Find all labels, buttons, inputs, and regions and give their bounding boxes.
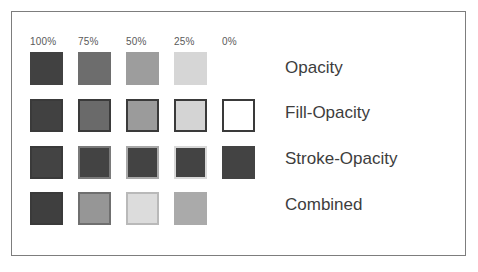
swatch-row-0-col-75 — [78, 52, 111, 85]
opacity-demo-figure: 100%75%50%25%0% OpacityFill-OpacityStrok… — [0, 0, 478, 272]
swatch-row-1-col-0 — [222, 99, 255, 132]
row-label-0: Opacity — [285, 58, 343, 78]
swatch-row-3-col-50 — [126, 192, 159, 225]
column-header-25: 25% — [174, 36, 195, 48]
swatch-row-2-col-0 — [222, 146, 255, 179]
swatch-row-1-col-100 — [30, 99, 63, 132]
row-label-2: Stroke-Opacity — [285, 149, 397, 169]
swatch-row-2-col-75 — [78, 146, 111, 179]
swatch-row-1-col-25 — [174, 99, 207, 132]
row-label-3: Combined — [285, 195, 363, 215]
swatch-row-3-col-25 — [174, 192, 207, 225]
row-label-1: Fill-Opacity — [285, 103, 370, 123]
column-header-75: 75% — [78, 36, 99, 48]
swatch-row-0-col-100 — [30, 52, 63, 85]
swatch-row-1-col-75 — [78, 99, 111, 132]
swatch-row-2-col-25 — [174, 146, 207, 179]
swatch-row-3-col-75 — [78, 192, 111, 225]
swatch-row-3-col-100 — [30, 192, 63, 225]
column-header-50: 50% — [126, 36, 147, 48]
swatch-row-2-col-100 — [30, 146, 63, 179]
column-header-100: 100% — [30, 36, 56, 48]
column-header-0: 0% — [222, 36, 237, 48]
swatch-row-2-col-50 — [126, 146, 159, 179]
swatch-row-0-col-25 — [174, 52, 207, 85]
swatch-row-1-col-50 — [126, 99, 159, 132]
swatch-row-0-col-50 — [126, 52, 159, 85]
